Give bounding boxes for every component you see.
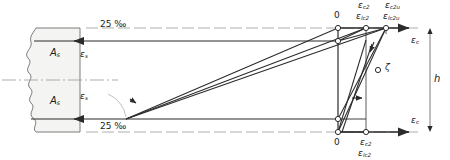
pivot-zeta-label: ζ: [385, 63, 390, 72]
strain-plane-7: [338, 28, 386, 132]
zero-bottom-label: 0: [334, 138, 340, 147]
strain-plane-1: [126, 28, 338, 119]
top-steel-area-label: As: [50, 48, 60, 59]
diagram-canvas: [0, 0, 450, 160]
node-epsc2-bottom: [363, 129, 368, 134]
tension-limit-top-label: 25 ‰: [100, 20, 126, 29]
eps-lc2u-top-label: εlc2u: [383, 12, 400, 22]
eps-c2-bottom-label: εc2: [360, 138, 372, 148]
node-steel-top: [335, 38, 340, 43]
depth-arrow-top: [427, 28, 432, 34]
node-zero-bottom: [335, 129, 340, 134]
strain-plane-2: [126, 28, 366, 119]
eps-c2u-top-label: εc2u: [385, 1, 400, 11]
node-epsc2-top: [363, 25, 368, 30]
cross-section-group: [2, 28, 118, 132]
node-steel-bottom: [335, 116, 340, 121]
eps-lc2-top-label: εlc2: [356, 12, 369, 22]
zero-top-label: 0: [334, 11, 340, 20]
figure-root: As As 25 ‰ 25 ‰ εs εs 0 0 εc2 εc2u εlc2 …: [0, 0, 450, 160]
concrete-strain-bottom-label: εc: [411, 116, 419, 126]
node-zero-top: [335, 25, 340, 30]
eps-lc2-bottom-label: εlc2: [358, 149, 371, 159]
fan-direction-arrow-left: [130, 99, 136, 103]
depth-dimension-group: [427, 28, 432, 132]
steel-strain-top-label: εs: [80, 50, 88, 60]
concrete-strain-top-label: εc: [411, 36, 419, 46]
bottom-steel-area-label: As: [50, 96, 60, 107]
depth-arrow-bottom: [427, 126, 432, 132]
strain-plane-3: [126, 28, 386, 119]
rotation-arc: [108, 94, 126, 117]
node-epsc2u-top: [383, 25, 388, 30]
strain-plane-8: [338, 40, 366, 132]
depth-dimension-label: h: [434, 74, 440, 84]
tension-limit-bottom-label: 25 ‰: [100, 122, 126, 131]
steel-strain-bottom-label: εs: [80, 92, 88, 102]
eps-c2-top-label: εc2: [358, 1, 370, 11]
strain-plane-fan: [126, 28, 386, 132]
node-pivot-zeta: [375, 67, 380, 72]
